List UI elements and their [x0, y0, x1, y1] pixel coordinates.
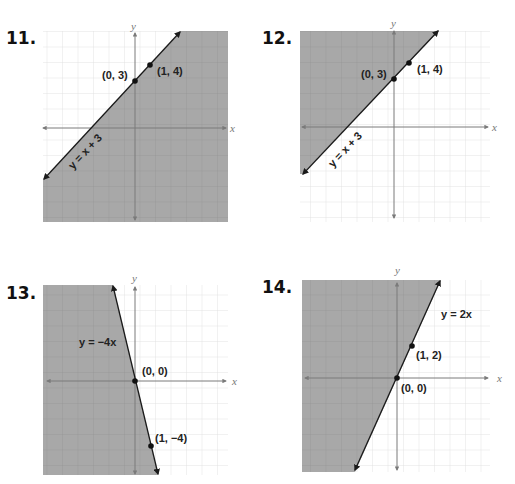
- y-axis-label: y: [394, 264, 400, 276]
- equation-label: y = 2x: [441, 308, 473, 320]
- point-label: (0, 0): [142, 365, 168, 377]
- point-label: (0, 3): [102, 69, 128, 81]
- point-1-neg4: [148, 443, 154, 449]
- point-label: (1, −4): [155, 432, 187, 444]
- y-axis-label: y: [390, 17, 396, 29]
- y-axis-label: y: [130, 20, 136, 32]
- x-axis-label: x: [496, 372, 502, 384]
- point-0-3: [391, 76, 397, 82]
- x-axis-label: x: [229, 122, 235, 134]
- point-0-0: [132, 378, 138, 384]
- graphs-canvas: x y (0, 3) (1, 4) y = x + 3 x y (0, 3) (…: [0, 0, 515, 484]
- graph-12: x y (0, 3) (1, 4) y = x + 3: [300, 17, 497, 222]
- graph-11: x y (0, 3) (1, 4) y = x + 3: [43, 20, 235, 222]
- point-1-4: [406, 60, 412, 66]
- y-axis-label: y: [131, 272, 137, 284]
- point-1-4: [147, 62, 153, 68]
- point-label: (0, 3): [361, 68, 387, 80]
- x-axis-label: x: [491, 121, 497, 133]
- equation-label: y = −4x: [79, 336, 117, 348]
- point-label: (0, 0): [401, 382, 427, 394]
- point-0-3: [132, 78, 138, 84]
- graph-13: x y (0, 0) (1, −4) y = −4x: [43, 272, 237, 475]
- point-label: (1, 4): [157, 65, 183, 77]
- point-0-0: [394, 375, 400, 381]
- point-1-2: [409, 343, 415, 349]
- point-label: (1, 2): [416, 349, 442, 361]
- graph-14: x y (1, 2) (0, 0) y = 2x: [302, 264, 502, 472]
- point-label: (1, 4): [417, 63, 443, 75]
- x-axis-label: x: [231, 375, 237, 387]
